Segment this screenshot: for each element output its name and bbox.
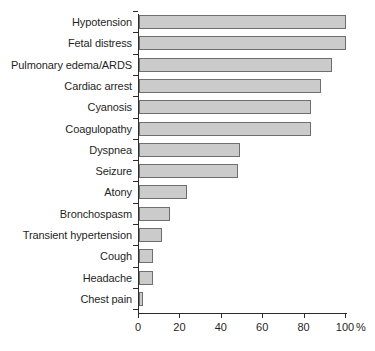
x-axis-tick-label: 40 [215,321,227,334]
bar [139,185,187,199]
y-axis-tick [133,11,138,12]
bar [139,36,346,50]
x-axis-tick-label: 0 [135,321,141,334]
x-axis-tick [221,313,222,318]
bar-rows: HypotensionFetal distressPulmonary edema… [0,15,375,313]
y-axis-tick [133,160,138,161]
category-label: Cough [100,250,132,262]
y-axis-tick [133,203,138,204]
category-label: Dyspnea [89,144,132,156]
bar-row: Bronchospasm [0,207,375,221]
bar-row: Fetal distress [0,36,375,50]
category-label: Seizure [95,165,132,177]
bar [139,143,240,157]
bar [139,249,153,263]
bar [139,207,170,221]
category-label: Coagulopathy [65,123,132,135]
bar-row: Seizure [0,164,375,178]
category-label: Cardiac arrest [64,80,132,92]
y-axis-tick [133,75,138,76]
x-axis-unit-label: % [356,321,366,334]
bar-row: Cough [0,249,375,263]
y-axis-tick [133,309,138,310]
category-label: Headache [83,272,132,284]
x-axis-tick [304,313,305,318]
y-axis-tick [133,118,138,119]
bar-row: Cardiac arrest [0,79,375,93]
bar-row: Atony [0,185,375,199]
bar [139,15,346,29]
bar-row: Hypotension [0,15,375,29]
x-axis-tick-label: 100 [336,321,354,334]
bar [139,79,321,93]
bar [139,271,153,285]
category-label: Transient hypertension [23,229,132,241]
x-axis-tick-label: 60 [256,321,268,334]
bar-row: Pulmonary edema/ARDS [0,58,375,72]
bar-row: Cyanosis [0,100,375,114]
bar [139,122,311,136]
y-axis-tick [133,245,138,246]
bar [139,292,143,306]
bar-row: Coagulopathy [0,122,375,136]
bar-row: Dyspnea [0,143,375,157]
x-axis-tick [179,313,180,318]
x-axis-tick [345,313,346,318]
x-axis-tick [138,313,139,318]
bar-chart: HypotensionFetal distressPulmonary edema… [0,0,375,351]
bar [139,164,238,178]
bar [139,100,311,114]
category-label: Chest pain [80,293,132,305]
bar-row: Transient hypertension [0,228,375,242]
x-axis-tick-label: 80 [297,321,309,334]
bar [139,228,162,242]
y-axis-tick [133,267,138,268]
y-axis-tick [133,54,138,55]
y-axis-tick [133,181,138,182]
category-label: Atony [104,186,132,198]
category-label: Cyanosis [88,101,132,113]
y-axis-tick [133,224,138,225]
y-axis-tick [133,288,138,289]
x-axis-line [138,313,347,314]
category-label: Bronchospasm [60,208,132,220]
x-axis-tick-label: 20 [173,321,185,334]
y-axis-tick [133,32,138,33]
y-axis-tick [133,96,138,97]
y-axis-tick [133,139,138,140]
category-label: Pulmonary edema/ARDS [11,59,132,71]
category-label: Fetal distress [68,37,132,49]
x-axis-tick [262,313,263,318]
category-label: Hypotension [72,16,132,28]
bar-row: Headache [0,271,375,285]
bar-row: Chest pain [0,292,375,306]
bar [139,58,332,72]
